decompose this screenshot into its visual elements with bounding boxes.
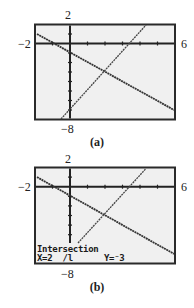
calculator-screen xyxy=(0,0,194,308)
intersection-y-value: Y=⁻3 xyxy=(104,254,124,263)
intersection-x-value: X=2 /l xyxy=(37,254,73,263)
graph-panel-b: 2 −2 6 −8 (b) Intersection X=2 /l Y=⁻3 xyxy=(0,0,194,308)
